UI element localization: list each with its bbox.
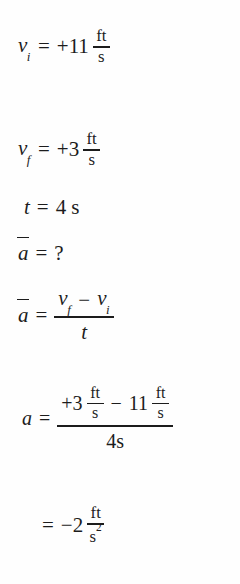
unit-feet-per-second: ft s <box>83 131 100 169</box>
unit-second: s <box>71 197 79 218</box>
unit-feet-per-second: ft s <box>93 28 110 66</box>
equation-sheet: vi = +11 ft s vf = +3 ft s t = 4 s a = ?… <box>0 0 240 584</box>
equation-substitution: a = +3 ft s − 11 ft s 4s <box>22 385 173 451</box>
equals-sign: = <box>38 36 50 57</box>
variable-a-bar: a <box>18 305 29 326</box>
minus-sign: − <box>111 393 122 413</box>
sign-positive: + <box>61 393 72 413</box>
minus-sign: − <box>78 290 90 311</box>
sign-positive: + <box>57 36 69 57</box>
equals-sign: = <box>39 408 50 428</box>
equals-sign: = <box>36 305 48 326</box>
sign-negative: − <box>61 515 73 536</box>
question-mark: ? <box>54 243 63 264</box>
variable-t: t <box>24 197 30 218</box>
equation-result: = −2 ft s2 <box>42 505 104 546</box>
value-2: 2 <box>73 515 84 536</box>
variable-v-initial: vi <box>97 288 110 312</box>
equals-sign: = <box>42 515 54 536</box>
value-3: 3 <box>73 393 83 413</box>
value-11: 11 <box>129 393 148 413</box>
denominator-s-squared: s2 <box>89 526 103 545</box>
variable-v-initial: vi <box>18 35 31 59</box>
sign-positive: + <box>57 139 69 160</box>
equation-acceleration-definition: a = vf − vi t <box>18 288 114 343</box>
variable-v-final: vf <box>18 138 31 162</box>
equals-sign: = <box>36 243 48 264</box>
value-11: 11 <box>69 36 89 57</box>
variable-t: t <box>81 322 87 343</box>
fraction-numerator: vf − vi <box>54 288 114 312</box>
fraction-denominator: t <box>77 322 91 343</box>
variable-a-bar: a <box>18 243 29 264</box>
fraction-denominator: 4s <box>102 431 128 451</box>
equals-sign: = <box>37 197 49 218</box>
fraction-numerator: +3 ft s − 11 ft s <box>57 385 173 421</box>
variable-v-final: vf <box>58 288 71 312</box>
equation-initial-velocity: vi = +11 ft s <box>18 28 110 66</box>
variable-a: a <box>22 408 32 428</box>
fraction-bar <box>57 425 173 426</box>
value-3: 3 <box>69 139 80 160</box>
equation-final-velocity: vf = +3 ft s <box>18 131 100 169</box>
unit-feet-per-second: ft s <box>152 385 169 421</box>
fraction-delta-v-over-t: vf − vi t <box>54 288 114 343</box>
equation-time: t = 4 s <box>24 197 79 218</box>
value-4: 4 <box>56 197 67 218</box>
equation-unknown-acceleration: a = ? <box>18 243 64 264</box>
unit-feet-per-second-squared: ft s2 <box>87 505 104 546</box>
fraction-substituted-values: +3 ft s − 11 ft s 4s <box>57 385 173 451</box>
unit-feet-per-second: ft s <box>87 385 104 421</box>
equals-sign: = <box>38 139 50 160</box>
